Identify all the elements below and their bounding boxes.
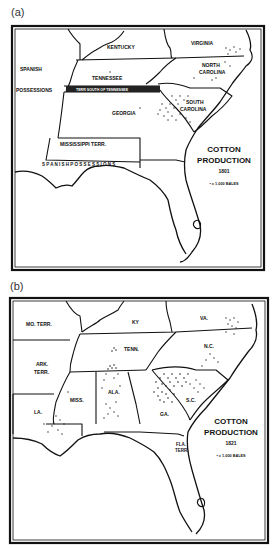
label-south-carolina-2: CAROLINA [180,106,207,112]
label-north-carolina-2: CAROLINA [199,69,226,75]
cotton-dots-1821 [43,317,238,434]
label-kentucky: KENTUCKY [107,44,135,50]
label-mississippi-terr: MISSISSIPPI TERR. [60,141,107,147]
year-1821: 1821 [225,440,236,446]
label-ark-terr-1: ARK. [36,361,49,367]
label-spanish: SPANISH [20,66,42,72]
label-ala: ALA. [108,389,120,395]
label-sc: S.C. [186,397,196,403]
title-line2-1801: PRODUCTION [197,156,251,165]
map-1801: KENTUCKY VIRGINIA SPANISH TENNESSEE NORT… [0,0,277,275]
label-ark-terr-2: TERR. [34,369,50,375]
label-tenn: TENN. [124,346,140,352]
label-nc: N.C. [204,343,215,349]
legend-1801: • = 1,000 BALES [209,182,239,186]
label-georgia: GEORGIA [112,110,136,116]
label-miss: MISS. [70,397,84,403]
label-fla-terr-2: TERR. [175,448,189,453]
label-fla-terr-1: FLA. [176,442,186,447]
label-spanish-possessions-coast: S P A N I S H P O S S E S S I O N S [42,162,115,167]
label-terr-south: TERR SOUTH OF TENNESSEE [76,88,129,92]
label-la: LA. [34,409,43,415]
label-possessions: POSSESSIONS [16,87,53,93]
label-ga: GA. [160,411,170,417]
title-line2-1821: PRODUCTION [204,428,258,437]
year-1801: 1801 [218,168,229,174]
map-1821: MO. TERR. KY VA. TENN. N.C. ARK. TERR. M… [0,274,277,548]
label-tennessee: TENNESSEE [92,75,123,81]
label-ky: KY [132,319,140,325]
label-north-carolina-1: NORTH [202,62,220,68]
label-virginia: VIRGINIA [191,40,214,46]
label-mo-terr: MO. TERR. [26,321,52,327]
label-south-carolina-1: SOUTH [186,99,204,105]
title-line1-1821: COTTON [214,417,248,426]
label-va: VA. [200,315,209,321]
title-line1-1801: COTTON [207,145,241,154]
legend-1821: • = 1,000 BALES [216,454,246,458]
